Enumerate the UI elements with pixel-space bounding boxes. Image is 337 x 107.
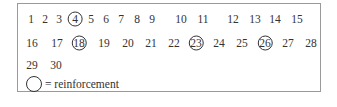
session-number: 15 bbox=[291, 12, 303, 26]
reinforcement-schedule-box: 1234567891011121314151617181920212223242… bbox=[17, 3, 321, 92]
session-number: 13 bbox=[249, 12, 261, 26]
session-number: 10 bbox=[175, 12, 187, 26]
legend: = reinforcement bbox=[26, 75, 119, 93]
reinforced-session-number: 18 bbox=[73, 36, 85, 50]
session-number: 16 bbox=[26, 36, 38, 50]
session-number: 9 bbox=[149, 12, 155, 26]
session-number: 6 bbox=[103, 12, 109, 26]
reinforced-session-number: 23 bbox=[190, 36, 202, 50]
session-number: 21 bbox=[145, 36, 157, 50]
session-number: 29 bbox=[26, 58, 38, 72]
legend-label: = reinforcement bbox=[45, 78, 119, 90]
session-number: 25 bbox=[236, 36, 248, 50]
session-number: 17 bbox=[51, 36, 63, 50]
session-number: 12 bbox=[227, 12, 239, 26]
session-number: 24 bbox=[213, 36, 225, 50]
session-number: 1 bbox=[28, 12, 34, 26]
session-number: 11 bbox=[197, 12, 208, 26]
session-number: 22 bbox=[168, 36, 180, 50]
session-number: 5 bbox=[88, 12, 94, 26]
session-number: 14 bbox=[269, 12, 281, 26]
session-number: 27 bbox=[282, 36, 294, 50]
session-number: 3 bbox=[56, 12, 62, 26]
session-number: 8 bbox=[134, 12, 140, 26]
session-number: 19 bbox=[98, 36, 110, 50]
session-number: 28 bbox=[305, 36, 317, 50]
session-number: 20 bbox=[122, 36, 134, 50]
session-number: 7 bbox=[118, 12, 124, 26]
reinforced-session-number: 26 bbox=[259, 36, 271, 50]
session-number: 2 bbox=[42, 12, 48, 26]
reinforced-session-number: 4 bbox=[72, 12, 78, 26]
circle-icon bbox=[26, 76, 42, 92]
session-number: 30 bbox=[50, 58, 62, 72]
